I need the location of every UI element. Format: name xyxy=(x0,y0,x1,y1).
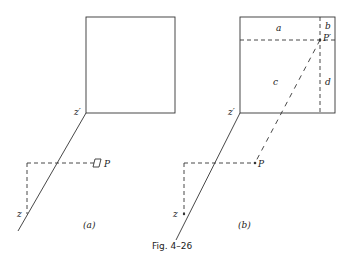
panel-b-point-p xyxy=(254,162,257,165)
panel-a-label-z-prime: z′ xyxy=(73,107,81,117)
panel-b-label-p: P xyxy=(257,159,265,169)
panel-b-label-p-prime: P′ xyxy=(322,33,331,43)
panel-b-region-b: b xyxy=(325,21,331,31)
panel-b-label-z: z xyxy=(172,209,178,219)
panel-b-region-a: a xyxy=(276,23,281,33)
panel-a-label-z: z xyxy=(16,209,22,219)
panel-a-label-p: P xyxy=(103,159,111,169)
panel-b-region-c: c xyxy=(273,77,278,87)
panel-a-z-axis xyxy=(18,113,86,231)
panel-b-point-p-prime xyxy=(319,39,322,42)
panel-b-label-z-prime: z′ xyxy=(227,107,235,117)
panel-a-p-marker xyxy=(93,159,101,167)
panel-b-z-axis xyxy=(176,113,240,240)
figure-caption: Fig. 4–26 xyxy=(152,241,192,251)
panel-b-square xyxy=(240,17,335,113)
panel-a-square xyxy=(86,17,175,113)
panel-b xyxy=(176,17,335,240)
panel-b-region-d: d xyxy=(325,77,331,87)
panel-b-point-z xyxy=(183,213,185,215)
panel-a xyxy=(18,17,175,231)
panel-a-caption: (a) xyxy=(83,220,96,230)
panel-b-caption: (b) xyxy=(238,220,251,230)
figure-canvas: z′ z P (a) z′ z P P′ a b c d (b) Fig. 4–… xyxy=(0,0,351,260)
panel-b-projection-line xyxy=(255,40,320,163)
